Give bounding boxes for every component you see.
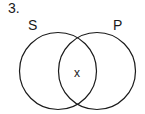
venn-diagram: 3. S P x	[0, 0, 145, 114]
set-label-p: P	[113, 17, 122, 33]
set-label-s: S	[28, 17, 37, 33]
intersection-mark: x	[74, 66, 80, 80]
problem-number: 3.	[8, 0, 20, 16]
